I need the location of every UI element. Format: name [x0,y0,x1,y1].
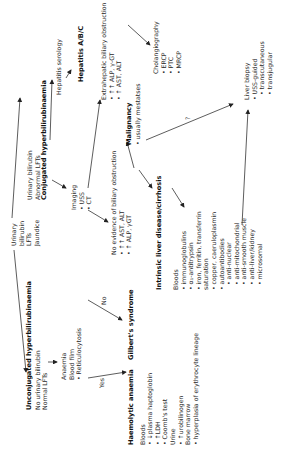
haemolytic-blood-test: ↑LDH [154,333,162,445]
haemolytic-blood-test: Coomb's test [161,333,169,445]
question-label: ? [184,117,191,120]
extrahepatic-bullet: ↑↑ ALP, γ-GT [108,3,116,100]
autoantibody-item: microsomal [256,211,264,290]
liver-biopsy-node: Liver biopsy USS-guided transcutaneous t… [243,41,273,100]
intrinsic-bullet: α₁-antitrypsin [187,211,195,290]
cholangiography-bullet: ERCP [160,21,168,74]
conjugated-node: Urinary bilirubin Abnormal LFTs Conjugat… [26,80,49,200]
anaemia-bullet: Reticulocytosis [75,328,83,380]
no-obstruction-bullet: ↑ ALP, γGT [125,151,133,255]
cholangiography-bullet: MRCP [175,21,183,74]
hepatitis-serology-label: Hepatitis serology [55,39,63,95]
intrinsic-bullet: copper, caeruloplasmin [210,211,218,290]
liver-biopsy-label: Liver biopsy [243,41,251,100]
imaging-bullet: USS [78,185,86,210]
flowchart-canvas: Urinary bilirubin LFTs Jaundice Unconjug… [0,0,288,450]
intrinsic-tests-node: Bloods immunoglobulins α₁-antitrypsin ir… [172,211,263,290]
autoantibody-item: anti-mitochondrial [233,211,241,290]
liver-biopsy-sub-bullet: transjugular [266,41,274,100]
cholangiography-node: Cholangiography ERCP PTC MRCP [152,21,182,74]
haemolytic-marrow-label: Bone marrow [184,333,192,445]
root-line: Urinary [10,220,18,246]
haemolytic-blood-test: ↓plasma haptoglobin [146,333,154,445]
unconjugated-title: Unconjugated hyperbilirubinaemia [26,281,34,410]
liver-biopsy-bullet: USS-guided [251,41,259,100]
intrinsic-bullet: iron, ferritin, transferrin [195,211,203,290]
intrinsic-bullet: immunoglobulins [180,211,188,290]
malignancy-node: Malignancy usually mestatses [126,83,141,145]
extrahepatic-label: Extrahepatic biliary obstruction [100,3,108,100]
autoantibody-item: anti-nuclear [225,211,233,290]
hepatitis-abc-node: Hepatitis A/B/C [78,26,86,82]
unconjugated-line: Normal LFTs [41,281,49,410]
malignancy-bullet: usually mestatses [134,83,142,145]
conjugated-title: Conjugated hyperbilirubinaemia [41,80,49,200]
yes-label: Yes [98,378,105,388]
autoantibody-item: anti-smooth muscle [240,211,248,290]
imaging-label: Imaging [70,185,78,210]
anaemia-line: Anaemia [60,328,68,380]
root-line: LFTs [25,220,33,246]
intrinsic-title: Intrinsic liver disease/cirrhosis [156,176,164,290]
autoantibody-item: anti-liver/kidney [248,211,256,290]
intrinsic-node: Intrinsic liver disease/cirrhosis [156,176,164,290]
haemolytic-node: Haemolytic anaemia Bloods ↓plasma haptog… [128,333,199,445]
root-node: Urinary bilirubin LFTs Jaundice [10,220,40,246]
intrinsic-saturation: saturation [202,211,210,290]
no-obstruction-label: No evidence of biliary obstruction [110,151,118,255]
extrahepatic-bullet: ↑ AST, ALT [115,3,123,100]
anaemia-line: Blood film [68,328,76,380]
no-obstruction-node: No evidence of biliary obstruction ↑↑ AS… [110,151,133,255]
intrinsic-bullet: autoantibodies [218,211,226,290]
haemolytic-urine-test: ↑urobilinogen [177,333,185,445]
gilberts-node: Gilbert's syndrome [128,289,136,360]
haemolytic-bloods-label: Bloods [139,333,147,445]
root-line: Jaundice [33,220,41,246]
cholangiography-bullet: PTC [167,21,175,74]
hepatitis-serology-node: Hepatitis serology [55,39,63,95]
intrinsic-bloods-label: Bloods [172,211,180,290]
liver-biopsy-sub-bullet: transcutaneous [258,41,266,100]
hepatitis-abc-title: Hepatitis A/B/C [78,26,86,82]
root-line: bilirubin [18,220,26,246]
anaemia-tests-node: Anaemia Blood film Reticulocytosis [60,328,83,380]
imaging-bullet: CT [85,185,93,210]
gilberts-title: Gilbert's syndrome [128,289,136,360]
unconjugated-node: Unconjugated hyperbilirubinaemia No urin… [26,281,49,410]
conjugated-line: Urinary bilirubin [26,80,34,200]
haemolytic-marrow-test: hyperplasia of erythrocyte lineage [192,333,200,445]
cholangiography-label: Cholangiography [152,21,160,74]
imaging-node: Imaging USS CT [70,185,93,210]
no-label: No [100,297,107,305]
no-obstruction-bullet: ↑↑ AST, ALT [118,151,126,255]
malignancy-title: Malignancy [126,83,134,145]
unconjugated-line: No urinary bilirubin [34,281,42,410]
extrahepatic-node: Extrahepatic biliary obstruction ↑↑ ALP,… [100,3,123,100]
haemolytic-urine-label: Urine [169,333,177,445]
